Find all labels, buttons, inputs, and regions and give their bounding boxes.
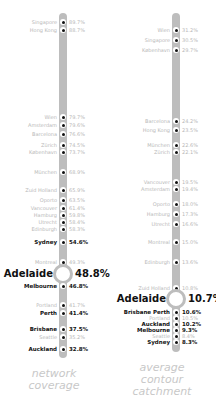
- city-label: Melbourne: [24, 282, 57, 290]
- dot-marker-icon: [60, 169, 66, 175]
- dot-marker-icon: [60, 131, 66, 137]
- data-point: Singapore89.7%: [0, 18, 108, 26]
- city-label: Oporto: [40, 196, 57, 204]
- dot-marker-icon: [173, 239, 179, 245]
- data-point: Barcelona24.2%: [108, 117, 216, 125]
- contour-catchment-chart: Wien31.2%Singapore30.5%København29.7%Bar…: [108, 0, 216, 413]
- data-point: Seattle35.2%: [0, 333, 108, 341]
- dot-marker-icon: [173, 221, 179, 227]
- dot-marker-icon: [60, 346, 66, 352]
- city-label: Utrecht: [151, 220, 170, 228]
- dot-marker-icon: [60, 114, 66, 120]
- value-label: 48.8%: [75, 266, 110, 282]
- value-label: 46.8%: [69, 282, 88, 290]
- chart-caption: networkcoverage: [0, 368, 108, 392]
- dot-marker-icon: [60, 19, 66, 25]
- data-point: København73.7%: [0, 148, 108, 156]
- dot-marker-icon: [173, 37, 179, 43]
- city-label: Singapore: [32, 18, 57, 26]
- data-point: Amsterdam19.4%: [108, 185, 216, 193]
- city-label: Hamburg: [147, 210, 170, 218]
- value-label: 32.8%: [69, 345, 88, 353]
- value-label: 19.4%: [182, 185, 198, 193]
- city-label: København: [142, 46, 170, 54]
- dot-marker-icon: [60, 187, 66, 193]
- data-point: Edinburgh13.6%: [108, 258, 216, 266]
- chart-caption: averagecontourcatchment: [108, 362, 216, 398]
- data-point: Hong Kong88.7%: [0, 26, 108, 34]
- dot-marker-icon: [60, 122, 66, 128]
- city-label: Montreal: [35, 258, 57, 266]
- value-label: 63.5%: [69, 196, 85, 204]
- value-label: 10.7%: [188, 291, 216, 307]
- value-label: 17.3%: [182, 210, 198, 218]
- value-label: 49.3%: [69, 258, 85, 266]
- value-label: 41.7%: [69, 301, 85, 309]
- dot-marker-icon: [60, 197, 66, 203]
- city-label: Montreal: [148, 238, 170, 246]
- value-label: 8.3%: [182, 338, 197, 346]
- data-point: Brisbane37.5%: [0, 325, 108, 333]
- value-label: 13.6%: [182, 258, 198, 266]
- dot-marker-icon: [60, 226, 66, 232]
- city-label: Wien: [45, 113, 57, 121]
- dot-marker-icon: [173, 259, 179, 265]
- data-point: København29.7%: [108, 46, 216, 54]
- dot-marker-icon: [173, 47, 179, 53]
- city-label: Adelaide: [4, 266, 53, 282]
- city-label: Perth: [40, 309, 57, 317]
- city-label: Adelaide: [117, 291, 166, 307]
- dot-marker-icon: [173, 118, 179, 124]
- city-label: Zürich: [154, 148, 170, 156]
- data-point: Sydney54.6%: [0, 238, 108, 246]
- network-coverage-chart: Singapore89.7%Hong Kong88.7%Wien79.7%Ams…: [0, 0, 108, 413]
- dot-marker-icon: [173, 211, 179, 217]
- highlight-ring-icon: [166, 289, 186, 309]
- value-label: 73.7%: [69, 148, 85, 156]
- data-point: Wien31.2%: [108, 26, 216, 34]
- highlight-ring-icon: [53, 264, 73, 284]
- data-point: Oporto63.5%: [0, 196, 108, 204]
- city-label: Singapore: [145, 36, 170, 44]
- city-label: Amsterdam: [141, 185, 170, 193]
- value-label: 23.5%: [182, 126, 198, 134]
- value-label: 30.5%: [182, 36, 198, 44]
- value-label: 54.6%: [69, 238, 88, 246]
- data-point: Montreal15.0%: [108, 238, 216, 246]
- value-label: 41.4%: [69, 309, 88, 317]
- data-point: Zürich22.1%: [108, 148, 216, 156]
- data-point: Wien79.7%: [0, 113, 108, 121]
- dot-marker-icon: [173, 127, 179, 133]
- dot-marker-icon: [60, 149, 66, 155]
- data-point: Hamburg17.3%: [108, 210, 216, 218]
- dot-marker-icon: [60, 27, 66, 33]
- value-label: 31.2%: [182, 26, 198, 34]
- city-label: Barcelona: [145, 117, 170, 125]
- city-label: Barcelona: [32, 130, 57, 138]
- dot-marker-icon: [60, 283, 66, 289]
- data-point: Zuid Holland65.9%: [0, 186, 108, 194]
- caption-line: catchment: [108, 386, 216, 398]
- value-label: 89.7%: [69, 18, 85, 26]
- dot-marker-icon: [60, 334, 66, 340]
- dot-marker-icon: [173, 339, 179, 345]
- data-point: Portland41.7%: [0, 301, 108, 309]
- value-label: 88.7%: [69, 26, 85, 34]
- value-label: 35.2%: [69, 333, 85, 341]
- value-label: 76.6%: [69, 130, 85, 138]
- city-label: Wien: [158, 26, 170, 34]
- data-point: Edinburgh58.3%: [0, 225, 108, 233]
- value-label: 79.6%: [69, 121, 85, 129]
- data-point: Auckland32.8%: [0, 345, 108, 353]
- value-label: 16.6%: [182, 220, 198, 228]
- data-point: Hong Kong23.5%: [108, 126, 216, 134]
- city-label: Auckland: [28, 345, 57, 353]
- dot-marker-icon: [173, 149, 179, 155]
- value-label: 18.0%: [182, 200, 198, 208]
- city-label: Sydney: [147, 338, 170, 346]
- data-point: Melbourne46.8%: [0, 282, 108, 290]
- data-point: Sydney8.3%: [108, 338, 216, 346]
- value-label: 22.1%: [182, 148, 198, 156]
- value-label: 37.5%: [69, 325, 88, 333]
- city-label: Hong Kong: [30, 26, 57, 34]
